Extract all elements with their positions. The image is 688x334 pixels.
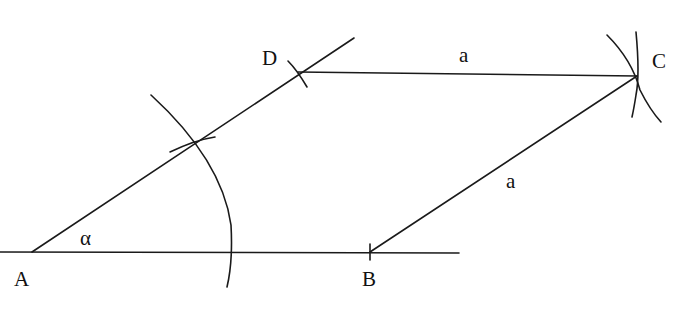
ray-AD [32,38,354,252]
angle-label-alpha: α [80,226,91,250]
compass-arc-mark-D [288,61,307,87]
side-label-BC: a [506,169,516,193]
compass-arc-large [151,95,232,287]
point-label-D: D [262,46,277,70]
point-label-B: B [362,267,376,291]
point-label-C: C [652,49,666,73]
segment-BC [370,76,637,252]
side-label-DC: a [459,43,469,67]
base-line-AB [0,252,459,253]
construction-diagram: A B C D α a a [0,0,688,334]
segment-DC [298,72,637,76]
point-label-A: A [14,267,30,291]
